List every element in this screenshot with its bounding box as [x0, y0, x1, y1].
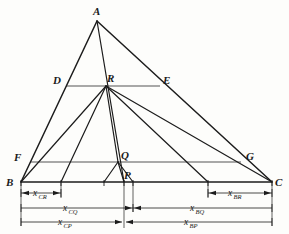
point-label-c: C	[275, 176, 283, 188]
triangle-outline-group	[21, 21, 272, 182]
arrow-xcq-right	[125, 206, 132, 211]
arrow-xcr-left	[22, 191, 29, 196]
point-label-b: B	[5, 176, 13, 188]
dimension-sublabel-xcq: CQ	[69, 208, 78, 215]
segment-cr	[106, 86, 272, 182]
dimension-label-xbp: x	[183, 217, 189, 227]
dimension-row-2: x CQ x BQ	[21, 203, 272, 215]
point-label-q: Q	[121, 149, 129, 161]
dimension-label-xbq: x	[189, 203, 195, 213]
point-label-f: F	[13, 151, 22, 163]
point-label-r: R	[106, 72, 114, 84]
dimension-sublabel-xcr: CR	[39, 193, 47, 200]
point-label-d: D	[52, 74, 61, 86]
segment-q-to-baseline-left	[104, 162, 118, 182]
arrow-xbr-left	[209, 191, 216, 196]
arrow-xcr-right	[53, 191, 60, 196]
arrow-xbp-left	[126, 220, 133, 225]
segment-ab	[21, 21, 97, 182]
vertex-labels-group: A B C D E F G R Q P	[5, 5, 283, 188]
dimension-label-xcr: x	[32, 188, 38, 198]
segment-r-to-baseline-left	[61, 86, 106, 182]
segment-rq	[106, 86, 118, 162]
dimension-sublabel-xbp: BP	[190, 222, 198, 229]
dimension-row-1: x CR x BR	[21, 188, 272, 200]
dimension-label-xcp: x	[57, 217, 63, 227]
point-label-e: E	[162, 74, 170, 86]
point-label-g: G	[246, 150, 254, 162]
point-label-a: A	[92, 5, 100, 17]
baseline-ticks-group	[21, 180, 272, 186]
dimension-row-3: x CP x BP	[21, 217, 272, 229]
figure-root: A B C D E F G R Q P	[0, 0, 289, 234]
dimension-sublabel-xcp: CP	[64, 222, 72, 229]
segment-ap	[97, 21, 124, 182]
point-label-p: P	[124, 169, 131, 181]
geometry-diagram: A B C D E F G R Q P	[0, 0, 289, 234]
arrow-xbr-right	[264, 191, 271, 196]
dimension-label-xbr: x	[227, 188, 233, 198]
dimension-sublabel-xbq: BQ	[196, 208, 205, 215]
segment-br	[21, 86, 106, 182]
dimension-sublabel-xbr: BR	[234, 193, 242, 200]
dimension-label-xcq: x	[62, 203, 68, 213]
arrow-xbq-left	[134, 206, 141, 211]
arrow-xcp-right	[115, 220, 122, 225]
